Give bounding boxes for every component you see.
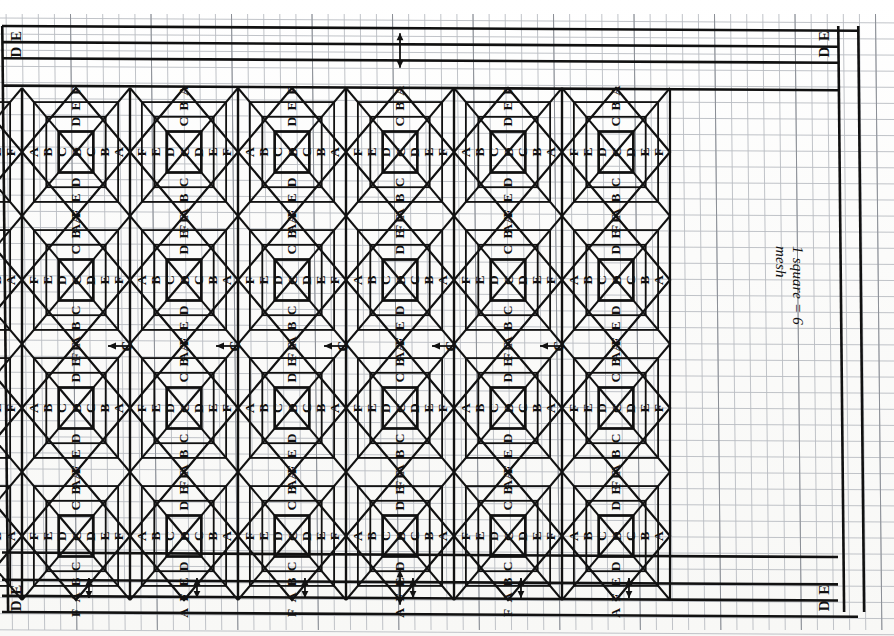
letter-label: A [3,275,18,285]
letter-label: A [435,275,450,285]
letter-label: E [609,577,624,586]
letter-label: E [285,449,300,458]
letter-label: E [816,585,832,595]
grid-line-horizontal [0,34,894,39]
letter-label: E [816,31,832,41]
letter-label: A [26,147,41,157]
block-corner-diagonal [22,88,59,132]
letter-label: D [609,500,624,510]
block-corner-diagonal [201,216,238,260]
letter-label: F [242,276,257,284]
letter-label: F [219,404,234,412]
letter-label: E [580,403,595,412]
letter-label: F [111,532,126,540]
letter-label: E [501,193,516,202]
letter-label: F [219,148,234,156]
letter-label: D [69,116,84,126]
letter-label: A [177,608,192,618]
block-corner-diagonal [309,88,346,132]
letter-label: D [609,561,624,571]
grid-line-horizontal [0,324,894,329]
letter-label: B [580,275,595,284]
letter-label: B [177,102,192,111]
letter-label: A [501,213,516,223]
grid-line-horizontal [0,179,894,184]
letter-label: E [177,486,192,495]
letter-label: D [8,47,24,58]
letter-label: E [148,403,163,412]
letter-label: B [40,147,55,156]
letter-label: E [472,531,487,540]
block-corner-diagonal [130,172,167,216]
frame-line-horizontal [2,58,838,63]
letter-label: B [256,147,271,156]
letter-label: D [162,403,177,413]
block-corner-diagonal [417,216,454,260]
letter-label: D [285,403,300,413]
grid-line-vertical-major [715,14,721,630]
letter-label: E [148,147,163,156]
letter-label: C [299,147,314,157]
letter-label: B [69,230,84,239]
letter-label: B [501,486,516,495]
block-corner-diagonal [309,556,346,600]
letter-label: C [177,117,192,127]
block-corner-diagonal [130,556,167,600]
letter-label: A [543,147,558,157]
letter-label: F [26,532,41,540]
letter-label: A [543,403,558,413]
letter-label: E [364,403,379,412]
arrow-head [324,343,332,350]
block-corner-diagonal [562,428,599,472]
letter-label: D [285,147,300,157]
letter-label: F [69,342,84,350]
letter-label: D [486,275,501,285]
letter-label: E [364,147,379,156]
letter-label: F [458,276,473,284]
letter-label: A [609,85,624,95]
block-corner-diagonal [238,88,275,132]
grid-line-horizontal [0,227,894,232]
letter-label: C [378,275,393,285]
letter-label: A [501,469,516,479]
letter-label: C [177,434,192,444]
letter-label: E [637,403,652,412]
letter-label: F [393,214,408,222]
block-corner-diagonal [454,172,491,216]
letter-label: F [350,404,365,412]
grid-line-horizontal [0,630,894,635]
letter-label: C [83,147,98,157]
grid-line-horizontal [0,453,894,458]
letter-label: F [26,276,41,284]
letter-label: E [256,275,271,284]
pattern-chart-svg: EEDDEEDDABCDCBADEFDEFAFEDCDEFCBACBAFABCD… [0,0,894,636]
letter-label: E [501,358,516,367]
letter-label: E [421,403,436,412]
grid-line-horizontal [0,517,894,522]
letter-label: D [393,500,408,510]
grid-line-horizontal [0,292,894,297]
letter-label: A [134,275,149,285]
letter-label: C [551,341,567,352]
letter-label: C [191,531,206,541]
letter-label: C [69,275,84,285]
block-corner-diagonal [346,216,383,260]
block-corner-diagonal [346,472,383,516]
letter-label: F [327,532,342,540]
letter-label: E [205,147,220,156]
letter-label: C [486,403,501,413]
letter-label: A [393,85,408,95]
letter-label: D [501,147,516,157]
letter-label: C [609,147,624,157]
block-corner-diagonal [562,472,599,516]
letter-label: E [69,449,84,458]
letter-label: F [285,86,300,94]
letter-label: B [364,275,379,284]
grid-line-horizontal [0,501,894,506]
letter-label: D [501,433,516,443]
arrow-head [432,343,440,350]
letter-label: A [350,275,365,285]
letter-label: D [594,403,609,413]
letter-label: F [327,276,342,284]
grid-line-horizontal [0,163,894,168]
